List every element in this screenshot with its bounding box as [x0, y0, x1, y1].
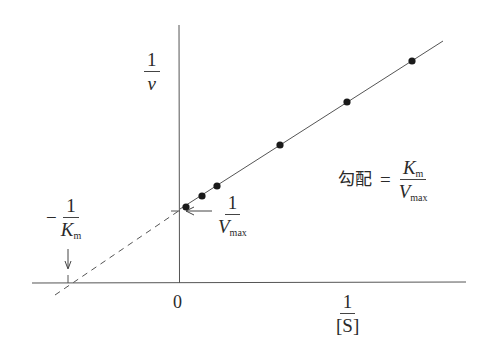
x-label-denominator: [S]	[336, 314, 359, 335]
slope-vmax-subscript: max	[410, 192, 427, 203]
slope-km-symbol: K	[403, 157, 416, 178]
slope-vmax-symbol: V	[399, 181, 411, 202]
y-intercept-numerator: 1	[225, 193, 241, 215]
data-point	[276, 141, 283, 148]
x-intercept-arrow-icon	[65, 249, 71, 269]
y-axis	[179, 25, 180, 283]
data-point	[408, 57, 415, 64]
slope-km-subscript: m	[416, 168, 424, 179]
y-axis-label: 1 v	[144, 50, 160, 93]
data-point	[198, 192, 205, 199]
slope-label: 勾配 = Km Vmax	[338, 158, 428, 201]
x-axis-label: 1 [S]	[336, 292, 359, 335]
km-symbol: K	[61, 219, 74, 240]
minus-sign: −	[46, 208, 57, 227]
km-subscript: m	[73, 230, 81, 241]
y-intercept-label: 1 Vmax	[218, 193, 247, 236]
data-point	[213, 182, 220, 189]
x-axis	[32, 282, 466, 283]
y-intercept-arrow-icon	[186, 207, 212, 215]
vmax-subscript: max	[230, 227, 247, 238]
data-point	[343, 98, 350, 105]
x-tick-zero: 0	[173, 293, 182, 311]
x-label-numerator: 1	[340, 292, 356, 314]
equals-sign: =	[380, 170, 391, 189]
vmax-symbol: V	[218, 216, 230, 237]
y-label-numerator: 1	[144, 50, 160, 72]
slope-text: 勾配	[338, 171, 372, 188]
x-intercept-numerator: 1	[63, 196, 79, 218]
x-intercept-label: − 1 Km	[46, 196, 81, 239]
y-label-denominator: v	[148, 72, 156, 93]
